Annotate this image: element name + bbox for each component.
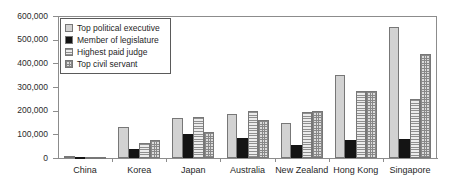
bar: [85, 157, 96, 159]
bar: [183, 134, 194, 158]
y-axis-label: 500,000: [17, 35, 48, 44]
bar: [172, 118, 183, 158]
bar: [399, 139, 410, 158]
legend-label: Highest paid judge: [77, 47, 147, 57]
bar: [227, 114, 238, 158]
bar: [237, 138, 248, 158]
bar: [96, 157, 107, 159]
legend-item[interactable]: Top political executive: [65, 22, 167, 34]
x-axis-label-japan: Japan: [181, 165, 206, 175]
bar: [356, 91, 367, 158]
bar: [193, 117, 204, 158]
legend-label: Member of legislature: [77, 35, 159, 45]
bar: [389, 27, 400, 158]
bar: [64, 156, 75, 158]
x-axis-tick: [220, 158, 221, 162]
bar: [420, 54, 431, 158]
bar: [345, 140, 356, 158]
legend-item[interactable]: Member of legislature: [65, 34, 167, 46]
bar: [302, 112, 313, 158]
legend-item[interactable]: Top civil servant: [65, 58, 167, 70]
y-axis-label: 0: [43, 154, 48, 163]
x-axis-label-china: China: [73, 165, 97, 175]
chart-legend: Top political executiveMember of legisla…: [60, 18, 171, 74]
bar: [312, 111, 323, 158]
salary-comparison-bar-chart: 600,000500,000400,000300,000200,000100,0…: [0, 0, 452, 187]
y-axis-label: 600,000: [17, 12, 48, 21]
x-axis-label-singapore: Singapore: [389, 165, 430, 175]
y-axis-label: 300,000: [17, 83, 48, 92]
x-axis-tick: [383, 158, 384, 162]
legend-label: Top civil servant: [77, 59, 137, 69]
bar: [410, 99, 421, 158]
bar: [75, 157, 86, 159]
y-axis-label: 400,000: [17, 59, 48, 68]
x-axis-tick: [112, 158, 113, 162]
bar: [291, 145, 302, 158]
bar: [139, 143, 150, 158]
y-axis-label: 200,000: [17, 106, 48, 115]
bar: [258, 120, 269, 158]
bar: [150, 140, 161, 158]
x-axis-line: [58, 158, 438, 159]
x-axis-label-australia: Australia: [230, 165, 265, 175]
x-axis-tick: [329, 158, 330, 162]
x-axis-tick: [275, 158, 276, 162]
bar: [248, 111, 259, 158]
bar: [335, 75, 346, 158]
bar: [281, 123, 292, 158]
legend-swatch-icon: [65, 60, 73, 68]
x-axis-label-korea: Korea: [127, 165, 151, 175]
x-axis-label-hong-kong: Hong Kong: [333, 165, 378, 175]
legend-swatch-icon: [65, 36, 73, 44]
legend-item[interactable]: Highest paid judge: [65, 46, 167, 58]
bar: [366, 91, 377, 158]
y-axis-label: 100,000: [17, 130, 48, 139]
legend-swatch-icon: [65, 24, 73, 32]
bar: [204, 132, 215, 158]
legend-swatch-icon: [65, 48, 73, 56]
legend-label: Top political executive: [77, 23, 160, 33]
x-axis-label-new-zealand: New Zealand: [275, 165, 328, 175]
bar: [129, 149, 140, 158]
x-axis-tick: [166, 158, 167, 162]
bar: [118, 127, 129, 158]
